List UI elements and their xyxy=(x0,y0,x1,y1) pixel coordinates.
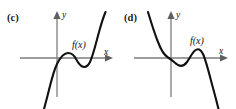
y-axis-arrowhead xyxy=(167,11,174,19)
x-axis-label-d: x xyxy=(219,47,223,57)
function-label-c: f(x) xyxy=(72,40,86,50)
function-curve-d xyxy=(148,12,219,109)
y-axis-label-d: y xyxy=(176,11,180,21)
x-axis-label-c: x xyxy=(104,48,108,58)
panel-label-d: (d) xyxy=(124,13,137,24)
panel-c: (c) y x f(x) xyxy=(0,0,118,109)
figure-container: (c) y x f(x) (d) y x f(x) xyxy=(0,0,236,109)
function-label-d: f(x) xyxy=(190,36,204,46)
y-axis-label-c: y xyxy=(62,11,66,21)
panel-label-c: (c) xyxy=(7,13,19,24)
function-curve-c xyxy=(44,12,106,109)
y-axis-arrowhead xyxy=(53,11,60,19)
panel-d: (d) y x f(x) xyxy=(118,0,236,109)
